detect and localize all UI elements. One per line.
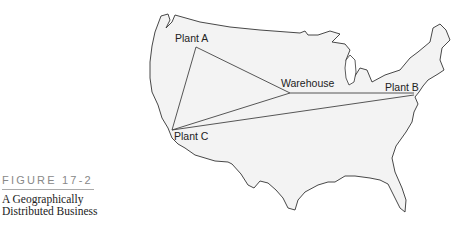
label-warehouse: Warehouse [281,77,334,89]
figure-title-line2: Distributed Business [2,205,152,217]
figure-caption: FIGURE 17-2 A Geographically Distributed… [2,174,152,217]
lake-michigan [345,55,356,85]
label-plant-a: Plant A [175,32,208,44]
figure-title-line1: A Geographically [2,193,152,205]
label-plant-c: Plant C [174,130,208,142]
label-plant-b: Plant B [385,81,419,93]
figure-number: FIGURE 17-2 [2,174,94,190]
